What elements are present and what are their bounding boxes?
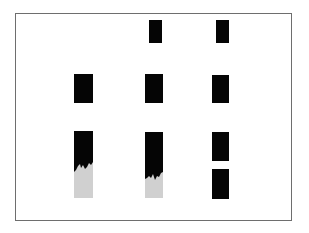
block-top-right (216, 20, 229, 43)
figure-canvas (0, 0, 309, 233)
block-mid-mid (145, 74, 163, 103)
block-mid-right (212, 75, 229, 103)
block-bottom-right-lower (212, 169, 229, 199)
bar-bottom-left (74, 131, 93, 198)
bar-bottom-mid (145, 132, 163, 198)
block-bottom-right-upper (212, 132, 229, 161)
block-top-mid (149, 20, 162, 43)
diagram-svg (0, 0, 309, 233)
bar-bottom-mid-dark (145, 132, 163, 180)
block-mid-left (74, 74, 93, 103)
